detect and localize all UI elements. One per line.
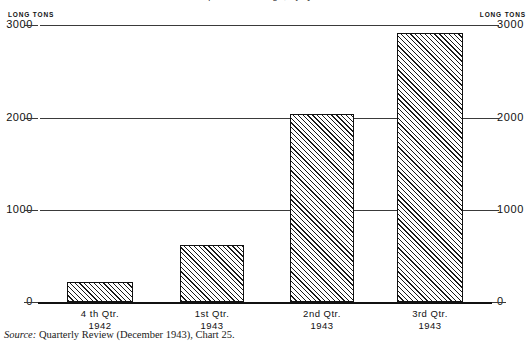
chart-title-cropped: Shipments of Cargo, by Quarter	[0, 0, 532, 3]
y-tick-label-right-3000: 3000	[497, 19, 524, 30]
bar-chart-figure: Shipments of Cargo, by Quarter LONG TONS…	[0, 0, 532, 343]
tick-stub-left-1000	[24, 210, 38, 211]
category-label-line1: 1st Qtr.	[172, 308, 252, 320]
source-note-text: Quarterly Review (December 1943), Chart …	[39, 329, 235, 340]
bar-q2-1943	[290, 114, 354, 302]
bar-q1-1943	[180, 245, 244, 302]
y-tick-label-right-1000: 1000	[497, 204, 524, 215]
category-label-q2-1943: 2nd Qtr. 1943	[282, 308, 362, 331]
y-tick-label-right-2000: 2000	[497, 112, 524, 123]
axis-baseline-zero	[38, 302, 492, 304]
tick-stub-left-0	[24, 302, 38, 303]
category-label-q1-1943: 1st Qtr. 1943	[172, 308, 252, 331]
bar-q3-1943	[397, 33, 463, 302]
category-label-q4-1942: 4 th Qtr. 1942	[60, 308, 140, 331]
tick-stub-right-2000	[485, 118, 499, 119]
plot-area: 3000 2000 1000 0 3000 2000 1000 0 4 th Q…	[38, 25, 492, 303]
tick-stub-right-1000	[485, 210, 499, 211]
category-label-line2: 1943	[390, 320, 470, 332]
source-note-label: Source:	[4, 329, 36, 340]
tick-stub-right-0	[492, 302, 506, 303]
tick-stub-left-2000	[24, 118, 38, 119]
bar-q4-1942	[67, 282, 133, 302]
tick-stub-right-3000	[485, 25, 499, 26]
category-label-line1: 4 th Qtr.	[60, 308, 140, 320]
category-label-line1: 3rd Qtr.	[390, 308, 470, 320]
category-label-q3-1943: 3rd Qtr. 1943	[390, 308, 470, 331]
gridline-3000	[40, 25, 485, 26]
y-axis-unit-caption-right: LONG TONS	[480, 11, 526, 18]
category-label-line1: 2nd Qtr.	[282, 308, 362, 320]
category-label-line2: 1943	[282, 320, 362, 332]
y-axis-unit-caption-left: LONG TONS	[8, 11, 54, 18]
source-note: Source: Quarterly Review (December 1943)…	[4, 329, 235, 340]
tick-stub-left-3000	[24, 25, 38, 26]
